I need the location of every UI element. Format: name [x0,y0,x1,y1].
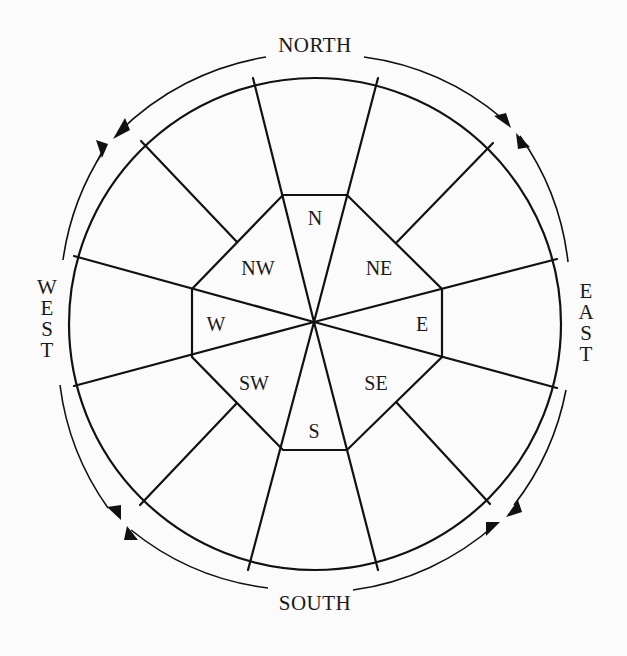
sector-label-sw: SW [239,372,269,394]
sector-label-nw: NW [241,257,274,279]
sector-label-n: N [308,207,322,229]
compass-diagram: N NE E SE S SW W NW NORTH SOUTH W E S T … [0,0,627,656]
cardinal-south: SOUTH [279,591,352,615]
cardinal-west: W E S T [37,275,57,362]
cardinal-north: NORTH [278,33,352,57]
sector-label-e: E [416,313,428,335]
sector-label-w: W [207,313,226,335]
arrow-bottom-right-icon [486,500,522,536]
svg-text:T: T [41,338,54,362]
sector-label-s: S [308,420,319,442]
svg-text:T: T [580,342,593,366]
arrow-bottom-left-icon [107,505,138,540]
cardinal-east: E A S T [578,279,594,366]
sector-label-ne: NE [366,257,393,279]
arrow-top-right-icon [494,113,530,149]
sector-label-se: SE [364,372,387,394]
